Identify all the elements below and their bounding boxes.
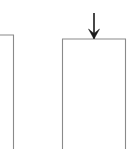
left-column-outline (0, 35, 14, 149)
diagram-svg (0, 0, 135, 149)
left-column (0, 35, 14, 149)
load-arrow (89, 13, 100, 39)
right-column (63, 39, 126, 149)
diagram-canvas (0, 0, 135, 149)
right-column-outline (63, 39, 126, 149)
